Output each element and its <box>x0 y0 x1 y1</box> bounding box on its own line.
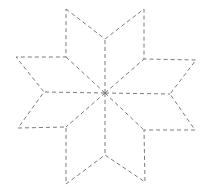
background <box>0 0 208 194</box>
eight-pointed-star-diagram <box>0 0 208 194</box>
